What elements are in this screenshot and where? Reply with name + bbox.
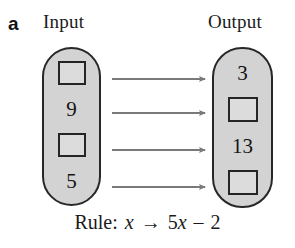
part-label: a	[8, 14, 19, 33]
output-cell-2	[214, 92, 271, 129]
output-empty-box-2[interactable]	[228, 170, 258, 195]
output-column-heading: Output	[208, 12, 262, 31]
output-capsule: 3 13	[212, 47, 273, 208]
input-value-5: 5	[66, 171, 77, 192]
rule-variable: x	[125, 211, 134, 233]
output-cell-4	[214, 165, 271, 202]
rule-expression-variable: x	[178, 211, 187, 233]
rule-operator: –	[194, 211, 204, 233]
input-cell-4: 5	[44, 163, 99, 199]
rule-prefix: Rule:	[74, 211, 117, 233]
function-machine-figure: a Input Output 9 5 3 13	[0, 0, 295, 248]
input-cell-3	[44, 127, 99, 163]
input-cell-1	[44, 55, 99, 91]
rule-caption: Rule:x→5x–2	[0, 209, 295, 236]
input-value-9: 9	[66, 99, 77, 120]
rule-arrow-glyph: →	[141, 211, 161, 233]
input-empty-box-1[interactable]	[58, 61, 86, 85]
input-capsule: 9 5	[42, 47, 101, 206]
output-empty-box-1[interactable]	[228, 97, 258, 122]
output-value-3: 3	[237, 63, 248, 84]
output-cell-1: 3	[214, 55, 271, 92]
input-cell-2: 9	[44, 91, 99, 127]
rule-constant: 2	[211, 211, 221, 233]
input-empty-box-2[interactable]	[58, 133, 86, 157]
output-value-13: 13	[232, 136, 253, 157]
input-column-heading: Input	[43, 12, 84, 31]
output-cell-3: 13	[214, 128, 271, 165]
rule-coefficient: 5	[168, 211, 178, 233]
